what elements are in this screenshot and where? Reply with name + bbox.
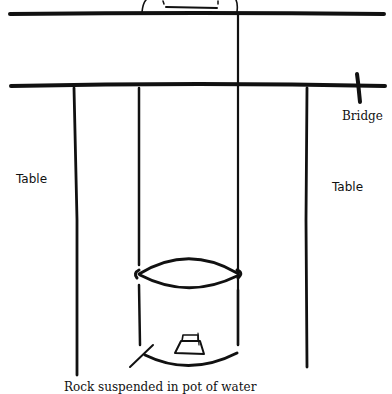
bridge-label: Bridge	[342, 109, 383, 123]
bridge-horizontal-rod	[11, 84, 385, 86]
top-horizontal-rod	[10, 13, 384, 14]
left-table-leg	[74, 88, 77, 375]
table-left-label: Table	[16, 172, 47, 186]
pot-body	[145, 353, 237, 366]
pot-rim	[135, 259, 240, 288]
caption-label: Rock suspended in pot of water	[64, 380, 256, 394]
right-table-leg	[306, 88, 307, 367]
top-object	[142, 0, 237, 12]
rock	[175, 333, 204, 354]
table-right-label: Table	[332, 180, 363, 194]
bridge-post	[357, 74, 360, 102]
